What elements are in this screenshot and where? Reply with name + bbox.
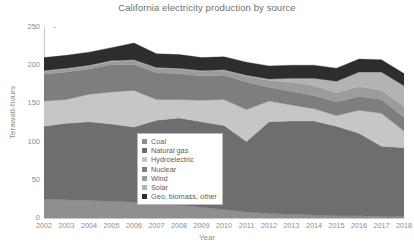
chart-legend: CoalNatural gasHydroelectricNuclearWindS…	[137, 133, 223, 205]
legend-item-label: Natural gas	[151, 146, 188, 155]
legend-item[interactable]: Coal	[142, 137, 217, 146]
x-axis-line	[44, 218, 405, 219]
plot-area	[44, 27, 404, 218]
y-tick-label: 200	[16, 61, 40, 69]
x-tick-label: 2018	[389, 221, 414, 230]
legend-swatch-icon	[142, 185, 147, 190]
legend-item[interactable]: Hydroelectric	[142, 155, 217, 164]
legend-item-label: Hydroelectric	[151, 155, 194, 164]
legend-item-label: Geo, biomass, other	[151, 192, 217, 201]
y-tick-label: 150	[16, 99, 40, 107]
legend-swatch-icon	[142, 167, 147, 172]
legend-swatch-icon	[142, 139, 147, 144]
legend-swatch-icon	[142, 194, 147, 199]
legend-swatch-icon	[142, 157, 147, 162]
legend-item[interactable]: Nuclear	[142, 165, 217, 174]
y-tick-label: 250	[16, 23, 40, 31]
chart-container: California electricity production by sou…	[0, 0, 414, 248]
y-tick-label: 50	[16, 176, 40, 184]
legend-item[interactable]: Geo, biomass, other	[142, 192, 217, 201]
x-axis-title: Year	[0, 233, 414, 242]
legend-item[interactable]: Solar	[142, 183, 217, 192]
stacked-area-svg	[44, 27, 404, 218]
legend-item-label: Solar	[151, 183, 168, 192]
chart-title: California electricity production by sou…	[0, 2, 414, 13]
legend-swatch-icon	[142, 148, 147, 153]
legend-item-label: Wind	[151, 174, 168, 183]
legend-item-label: Coal	[151, 137, 166, 146]
legend-item[interactable]: Natural gas	[142, 146, 217, 155]
legend-item-label: Nuclear	[151, 165, 176, 174]
x-axis-tick-labels: 2002200320042005200620072008200920102011…	[0, 221, 414, 233]
y-axis-tick-labels: 050100150200250	[12, 0, 40, 248]
legend-item[interactable]: Wind	[142, 174, 217, 183]
legend-swatch-icon	[142, 176, 147, 181]
y-tick-label: 100	[16, 138, 40, 146]
